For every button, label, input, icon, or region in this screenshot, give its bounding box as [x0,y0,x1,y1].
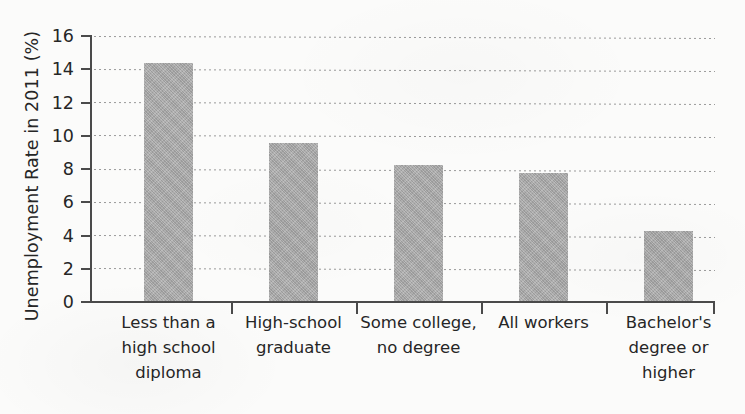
category-label: Less than ahigh schooldiploma [106,310,231,385]
y-axis-tick-label: 16 [52,26,74,46]
y-axis-tick-label: 0 [63,292,74,312]
y-axis-tick: 8 [81,168,92,170]
y-axis-tick: 16 [81,35,92,37]
category-label-line: All workers [481,310,606,335]
category-label-line: Bachelor's [606,310,731,335]
bar [394,165,443,301]
y-axis-tick-label: 12 [52,93,74,113]
y-axis-tick-label: 6 [63,192,74,212]
category-label: Bachelor'sdegree orhigher [606,310,731,385]
y-axis-tick-label: 4 [63,226,74,246]
y-axis-tick-label: 10 [52,126,74,146]
bar [269,143,318,301]
y-axis-tick: 10 [81,135,92,137]
category-label: Some college,no degree [356,310,481,360]
category-label-line: diploma [106,360,231,385]
category-label: High-schoolgraduate [231,310,356,360]
y-axis-tick-label: 14 [52,59,74,79]
category-label-line: higher [606,360,731,385]
y-axis-tick: 0 [81,301,92,303]
category-label-line: Less than a [106,310,231,335]
category-label-line: degree or [606,335,731,360]
category-label-line: high school [106,335,231,360]
bar [519,173,568,301]
gridline [94,36,715,39]
y-axis-tick: 4 [81,235,92,237]
category-label-line: no degree [356,335,481,360]
y-axis-tick: 14 [81,68,92,70]
y-axis-tick: 6 [81,201,92,203]
bar-chart-figure: Unemployment Rate in 2011 (%) 1614121086… [0,0,745,414]
x-axis-category-labels: Less than ahigh schooldiplomaHigh-school… [90,310,715,405]
y-axis-tick-label: 8 [63,159,74,179]
category-label-line: Some college, [356,310,481,335]
x-axis-line [90,301,715,303]
y-axis-tick-label: 2 [63,259,74,279]
y-axis-tick: 2 [81,268,92,270]
category-label: All workers [481,310,606,335]
bar [144,63,193,301]
category-label-line: High-school [231,310,356,335]
bar [644,231,693,301]
plot-area: 1614121086420 [90,36,715,302]
y-axis-title: Unemployment Rate in 2011 (%) [22,26,42,326]
y-axis-tick: 12 [81,102,92,104]
category-label-line: graduate [231,335,356,360]
